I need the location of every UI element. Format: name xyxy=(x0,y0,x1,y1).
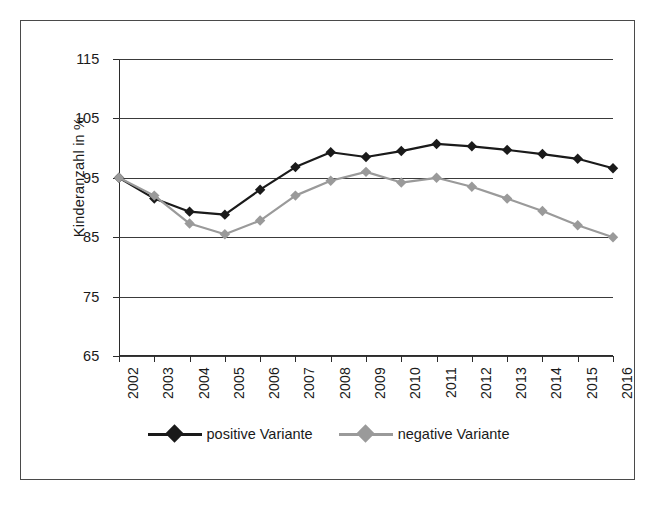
data-point-marker xyxy=(537,206,547,216)
data-point-marker xyxy=(573,154,583,164)
x-tick-mark-2011 xyxy=(437,356,438,362)
y-tick-label: 85 xyxy=(53,229,99,245)
x-tick-label: 2005 xyxy=(231,367,247,399)
x-tick-mark-2007 xyxy=(295,356,296,362)
x-tick-mark-2013 xyxy=(507,356,508,362)
legend-entry-2[interactable]: negative Variante xyxy=(339,426,510,442)
x-tick-label: 2008 xyxy=(337,367,353,399)
data-point-marker xyxy=(467,182,477,192)
x-tick-label: 2002 xyxy=(125,367,141,399)
data-point-marker xyxy=(184,206,194,216)
x-tick-mark-2010 xyxy=(401,356,402,362)
x-tick-label: 2013 xyxy=(513,367,529,399)
y-tick-label: 105 xyxy=(53,110,99,126)
x-tick-mark-2009 xyxy=(366,356,367,362)
data-point-marker xyxy=(467,141,477,151)
chart-page: Kinderanzahl in % 65758595105115 2002200… xyxy=(0,0,647,508)
legend-entry-1[interactable]: positive Variante xyxy=(148,426,313,442)
data-point-marker xyxy=(396,177,406,187)
x-tick-mark-2016 xyxy=(613,356,614,362)
legend-marker-icon xyxy=(148,427,202,441)
x-tick-mark-2005 xyxy=(225,356,226,362)
y-tick-label: 95 xyxy=(53,170,99,186)
x-tick-label: 2007 xyxy=(301,367,317,399)
data-point-marker xyxy=(114,173,124,183)
data-point-marker xyxy=(608,163,618,173)
series-line xyxy=(119,172,613,237)
data-point-marker xyxy=(573,220,583,230)
x-tick-label: 2011 xyxy=(443,367,459,398)
data-point-marker xyxy=(502,193,512,203)
y-tick-label: 115 xyxy=(53,51,99,67)
x-tick-mark-2002 xyxy=(119,356,120,362)
x-tick-label: 2014 xyxy=(548,367,564,399)
x-tick-mark-2015 xyxy=(578,356,579,362)
x-tick-label: 2009 xyxy=(372,367,388,399)
x-tick-label: 2015 xyxy=(584,367,600,399)
legend-marker-icon xyxy=(339,427,393,441)
x-tick-label: 2012 xyxy=(478,367,494,399)
x-tick-mark-2003 xyxy=(154,356,155,362)
x-tick-label: 2003 xyxy=(160,367,176,399)
x-tick-mark-2014 xyxy=(542,356,543,362)
data-point-marker xyxy=(431,139,441,149)
data-point-marker xyxy=(502,145,512,155)
series-2 xyxy=(114,167,618,243)
legend-label: positive Variante xyxy=(207,426,313,442)
x-tick-label: 2016 xyxy=(619,367,635,399)
series-plot xyxy=(119,59,613,356)
legend-label: negative Variante xyxy=(398,426,510,442)
y-tick-label: 75 xyxy=(53,289,99,305)
x-tick-mark-2008 xyxy=(331,356,332,362)
x-tick-label: 2004 xyxy=(196,367,212,399)
y-tick-label: 65 xyxy=(53,348,99,364)
chart-legend: positive Variantenegative Variante xyxy=(21,426,636,442)
data-point-marker xyxy=(326,147,336,157)
data-point-marker xyxy=(361,152,371,162)
plot-area: 65758595105115 2002200320042005200620072… xyxy=(119,59,613,356)
x-tick-label: 2006 xyxy=(266,367,282,399)
data-point-marker xyxy=(326,176,336,186)
x-tick-mark-2004 xyxy=(190,356,191,362)
x-tick-mark-2006 xyxy=(260,356,261,362)
x-tick-mark-2012 xyxy=(472,356,473,362)
data-point-marker xyxy=(361,167,371,177)
data-point-marker xyxy=(608,232,618,242)
data-point-marker xyxy=(537,149,547,159)
data-point-marker xyxy=(290,162,300,172)
data-point-marker xyxy=(220,229,230,239)
x-tick-label: 2010 xyxy=(407,367,423,399)
data-point-marker xyxy=(431,173,441,183)
figure-frame: Kinderanzahl in % 65758595105115 2002200… xyxy=(20,20,635,480)
data-point-marker xyxy=(396,146,406,156)
